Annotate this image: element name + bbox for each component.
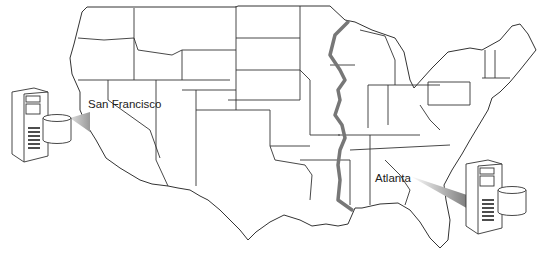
us-map: [0, 0, 543, 261]
city-label-atlanta: Atlanta: [375, 172, 411, 184]
mississippi-divider: [330, 22, 352, 210]
west-database-icon: [43, 115, 71, 144]
east-database-icon: [498, 187, 526, 216]
city-label-san-francisco: San Francisco: [88, 98, 162, 110]
us-map-diagram: San Francisco Atlanta: [0, 0, 543, 261]
east-beam: [410, 176, 470, 210]
east-server-icon: [466, 160, 502, 234]
west-beam: [70, 112, 90, 132]
